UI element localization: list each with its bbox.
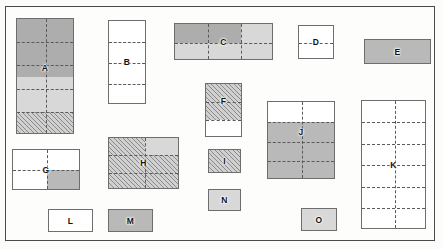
block-A-gridline-h4 [17, 112, 73, 113]
block-C-gridline-v2 [241, 24, 242, 59]
block-N-label: N [209, 190, 240, 210]
block-M[interactable]: M [108, 209, 153, 232]
block-H[interactable]: H [108, 137, 179, 189]
block-I[interactable]: I [208, 149, 241, 173]
block-L[interactable]: L [48, 209, 93, 232]
block-J-fill-white [268, 102, 334, 122]
block-A-gridline-h1 [17, 42, 73, 43]
block-K-gridline-h2 [362, 144, 425, 145]
diagram-frame: A B C D E [5, 6, 435, 241]
block-D[interactable]: D [298, 25, 334, 59]
block-B-gridline-h1 [109, 42, 145, 43]
block-O-label: O [302, 209, 336, 230]
block-C-gridline-h1 [175, 43, 272, 44]
block-B[interactable]: B [108, 20, 146, 104]
block-M-label: M [109, 210, 152, 231]
block-A-fill-light [17, 77, 73, 112]
block-A-fill-dark [17, 19, 73, 77]
block-A[interactable]: A [16, 18, 74, 134]
block-G-fill-gray [47, 170, 80, 190]
block-A-gridline-h3 [17, 89, 73, 90]
block-K-gridline-h1 [362, 122, 425, 123]
block-J-gridline-v1 [302, 102, 303, 178]
block-K-gridline-h5 [362, 208, 425, 209]
block-I-label: I [209, 150, 240, 172]
block-H-gridline-h2 [109, 173, 178, 174]
block-J[interactable]: J [267, 101, 335, 179]
block-N[interactable]: N [208, 189, 241, 211]
block-K-gridline-v1 [395, 101, 396, 228]
block-K[interactable]: K [361, 100, 426, 229]
block-E[interactable]: E [364, 39, 431, 64]
block-B-gridline-h2 [109, 63, 145, 64]
block-G-gridline-v1 [47, 150, 48, 189]
block-F-fill-white [206, 120, 241, 137]
block-B-gridline-h3 [109, 84, 145, 85]
block-D-label: D [299, 26, 333, 58]
block-H-gridline-h1 [109, 155, 178, 156]
block-F[interactable]: F [205, 83, 242, 137]
block-L-label: L [49, 210, 92, 231]
block-C[interactable]: C [174, 23, 273, 60]
block-K-gridline-h4 [362, 187, 425, 188]
block-E-label: E [365, 40, 430, 63]
block-O[interactable]: O [301, 208, 337, 231]
block-F-gridline-h1 [206, 102, 241, 103]
block-F-gridline-h2 [206, 120, 241, 121]
block-C-gridline-v1 [208, 24, 209, 59]
block-J-fill-gray [268, 122, 334, 179]
block-A-gridline-v1 [46, 19, 47, 133]
block-J-gridline-h3 [268, 161, 334, 162]
block-J-gridline-h2 [268, 142, 334, 143]
block-A-gridline-h2 [17, 65, 73, 66]
block-G-gridline-h1 [13, 170, 79, 171]
block-H-gridline-v1 [145, 138, 146, 188]
block-H-fill-patch [145, 138, 179, 155]
block-J-gridline-h1 [268, 122, 334, 123]
diagram-canvas: A B C D E [0, 0, 442, 249]
block-A-fill-hatch [17, 112, 73, 134]
block-D-gridline-h1 [299, 43, 333, 44]
block-K-gridline-h3 [362, 165, 425, 166]
block-G[interactable]: G [12, 149, 80, 190]
block-B-label: B [109, 21, 145, 103]
